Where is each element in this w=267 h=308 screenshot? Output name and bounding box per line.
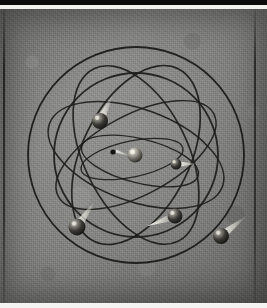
inner-particle <box>110 149 115 154</box>
electron-upper-left <box>92 113 108 129</box>
electron-center-right-highlight <box>173 160 176 163</box>
screenshot-root: Atomic Model Illustration Rutherford-Boh… <box>0 0 267 308</box>
nucleus <box>128 148 143 163</box>
electron-lower-right <box>213 228 229 244</box>
electron-center-right <box>171 159 182 170</box>
electron-lower-center <box>168 209 183 224</box>
electron-lower-left-highlight <box>72 221 76 225</box>
bottom-paper-gap <box>0 303 267 308</box>
electron-upper-left-highlight <box>95 116 99 120</box>
electron-lower-right-highlight <box>216 231 220 235</box>
electron-lower-center-highlight <box>170 211 174 215</box>
illustration-plate <box>0 9 267 303</box>
electron-lower-left <box>69 219 86 236</box>
atom-diagram <box>0 9 267 303</box>
nucleus-highlight <box>130 150 135 155</box>
